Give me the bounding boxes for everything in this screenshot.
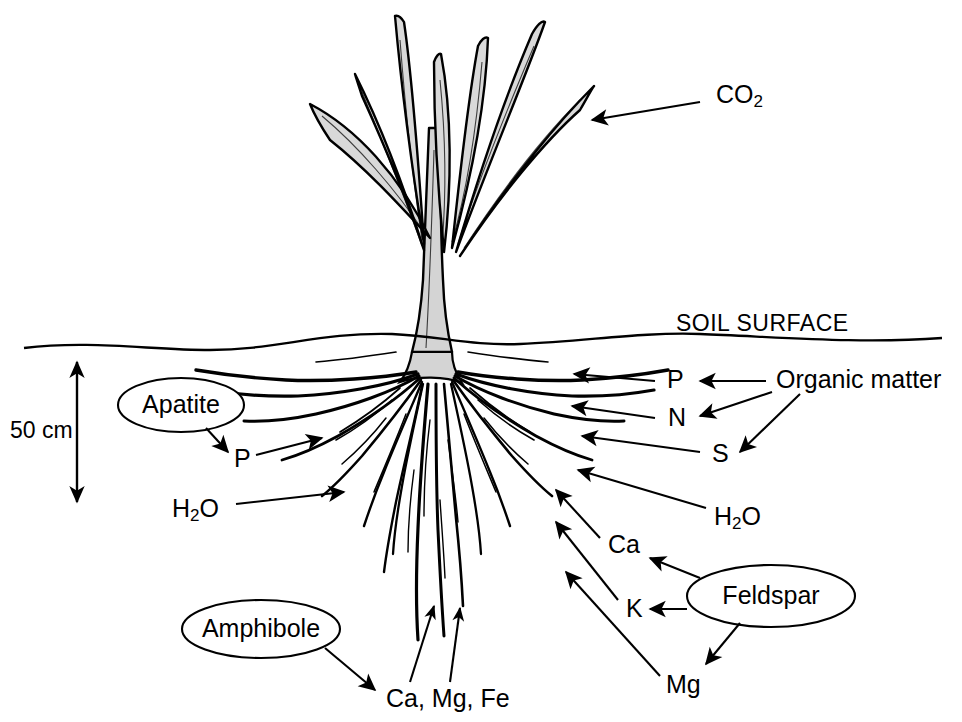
soil-nutrient-diagram: SOIL SURFACE 50 cm (0, 0, 962, 722)
figure-canvas: SOIL SURFACE 50 cm (0, 0, 962, 722)
n-right-label: N (668, 403, 686, 431)
p-left-label: P (234, 444, 251, 472)
s-right-label: S (712, 439, 729, 467)
organic-matter-label: Organic matter (776, 365, 941, 393)
mg-right-label: Mg (666, 670, 701, 698)
k-right-label: K (626, 594, 643, 622)
apatite-label: Apatite (142, 390, 220, 418)
feldspar-label: Feldspar (722, 581, 819, 609)
ca-right-label: Ca (608, 530, 640, 558)
ca-mg-fe-label: Ca, Mg, Fe (386, 684, 510, 712)
soil-surface-label: SOIL SURFACE (676, 310, 849, 336)
depth-scale-label: 50 cm (10, 417, 73, 443)
p-right-label: P (667, 365, 684, 393)
amphibole-label: Amphibole (202, 614, 320, 642)
